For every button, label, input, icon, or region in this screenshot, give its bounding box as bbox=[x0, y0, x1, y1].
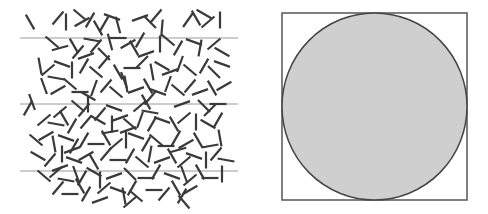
needle bbox=[38, 171, 51, 182]
figure-canvas bbox=[0, 0, 488, 214]
needle bbox=[208, 66, 220, 78]
needle bbox=[70, 39, 79, 54]
needle bbox=[154, 157, 170, 163]
needle bbox=[31, 152, 46, 161]
needle bbox=[185, 80, 196, 93]
needle bbox=[142, 111, 159, 114]
needle bbox=[136, 33, 145, 48]
needle bbox=[42, 65, 55, 76]
needle bbox=[53, 136, 56, 153]
needle bbox=[202, 145, 219, 148]
needle bbox=[100, 17, 109, 32]
needle bbox=[60, 111, 69, 126]
needle bbox=[92, 197, 108, 203]
needle bbox=[48, 123, 65, 126]
needle bbox=[48, 77, 65, 80]
needle bbox=[214, 113, 223, 128]
needle bbox=[41, 78, 47, 94]
needle bbox=[178, 113, 191, 124]
needle bbox=[208, 81, 217, 96]
needle bbox=[90, 155, 99, 170]
needle bbox=[123, 188, 126, 205]
needle bbox=[172, 131, 181, 146]
needle bbox=[124, 168, 136, 180]
needle bbox=[165, 76, 171, 92]
needle bbox=[149, 146, 152, 163]
needle bbox=[136, 157, 149, 168]
needle bbox=[39, 132, 54, 141]
needle bbox=[199, 40, 202, 57]
needle bbox=[174, 41, 183, 56]
needle bbox=[151, 10, 162, 23]
needle bbox=[172, 85, 185, 96]
needle bbox=[64, 79, 77, 90]
needle bbox=[179, 196, 190, 209]
needle bbox=[108, 34, 112, 50]
needle bbox=[184, 65, 197, 76]
needle bbox=[194, 133, 203, 148]
needle bbox=[138, 51, 154, 57]
needle bbox=[101, 80, 112, 93]
needle bbox=[90, 67, 103, 78]
needle bbox=[134, 101, 147, 112]
needle bbox=[52, 46, 68, 50]
needle bbox=[128, 87, 144, 93]
needle bbox=[24, 101, 33, 116]
needle bbox=[218, 159, 235, 162]
needle bbox=[215, 48, 230, 57]
needle bbox=[192, 89, 208, 95]
needle bbox=[136, 56, 148, 68]
needle bbox=[197, 10, 212, 18]
needle bbox=[84, 39, 101, 42]
needle bbox=[137, 112, 143, 128]
needle bbox=[198, 100, 210, 112]
needle bbox=[181, 166, 187, 182]
figure bbox=[0, 0, 488, 214]
needle bbox=[74, 10, 87, 21]
needle bbox=[170, 148, 186, 152]
needle bbox=[80, 133, 89, 148]
needle bbox=[204, 104, 216, 116]
needle bbox=[80, 59, 89, 74]
needle bbox=[114, 65, 123, 80]
needle bbox=[102, 131, 119, 134]
needle bbox=[106, 173, 122, 179]
needle bbox=[81, 116, 92, 129]
needle bbox=[172, 181, 181, 196]
needle bbox=[26, 15, 35, 30]
needle bbox=[148, 117, 157, 132]
needle bbox=[130, 41, 139, 56]
needle bbox=[72, 101, 85, 112]
needle bbox=[219, 130, 222, 147]
needle bbox=[208, 39, 221, 50]
needle bbox=[178, 157, 191, 168]
needle bbox=[58, 179, 75, 182]
needle bbox=[217, 82, 232, 91]
needle bbox=[214, 61, 230, 67]
needle bbox=[126, 149, 135, 164]
needle bbox=[120, 127, 136, 133]
needle bbox=[53, 182, 64, 195]
needle bbox=[162, 35, 175, 46]
needle bbox=[51, 86, 66, 95]
needle bbox=[82, 187, 91, 202]
inscribed-circle bbox=[282, 13, 467, 200]
needle bbox=[39, 58, 42, 75]
inscribed-circle-panel bbox=[282, 13, 467, 200]
needle bbox=[200, 59, 209, 74]
needle bbox=[192, 11, 201, 26]
needle bbox=[45, 154, 56, 167]
needle bbox=[177, 56, 183, 72]
needle bbox=[162, 69, 178, 75]
needle bbox=[154, 117, 170, 123]
needle bbox=[152, 165, 161, 180]
needle bbox=[38, 115, 51, 126]
needle bbox=[53, 12, 64, 25]
needle bbox=[91, 80, 97, 96]
needle bbox=[54, 61, 70, 67]
needle bbox=[150, 135, 163, 146]
needle bbox=[58, 135, 74, 141]
needle bbox=[202, 17, 215, 28]
needle bbox=[151, 64, 154, 81]
needle bbox=[101, 148, 112, 161]
